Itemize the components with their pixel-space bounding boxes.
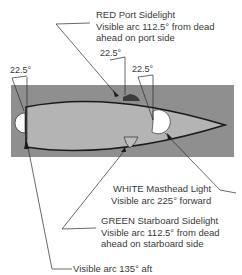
red-port-title: RED Port Sidelight bbox=[96, 9, 215, 21]
green-starboard-label: GREEN Starboard Sidelight Visible arc 11… bbox=[101, 215, 220, 250]
green-starboard-desc: ahead on starboard side bbox=[101, 238, 220, 250]
port-angle-label: 22.5° bbox=[100, 48, 121, 58]
stern-light-label: Visible arc 135° aft bbox=[73, 263, 152, 275]
masthead-angle-label: 22.5° bbox=[132, 64, 153, 74]
green-starboard-arc: Visible arc 112.5° from dead bbox=[101, 227, 220, 239]
red-port-arc: Visible arc 112.5° from dead bbox=[96, 21, 215, 33]
white-masthead-title: WHITE Masthead Light bbox=[111, 183, 211, 195]
red-port-label: RED Port Sidelight Visible arc 112.5° fr… bbox=[96, 9, 215, 44]
white-masthead-arc: Visible arc 225° forward bbox=[111, 195, 211, 207]
red-port-desc: ahead on port side bbox=[96, 32, 215, 44]
green-starboard-title: GREEN Starboard Sidelight bbox=[101, 215, 220, 227]
white-masthead-label: WHITE Masthead Light Visible arc 225° fo… bbox=[111, 183, 211, 206]
stern-angle-label: 22.5° bbox=[10, 65, 31, 75]
